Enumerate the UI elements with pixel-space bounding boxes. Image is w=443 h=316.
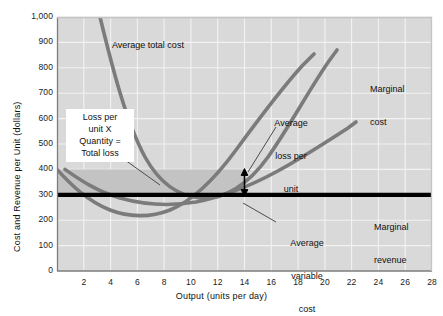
y-tick-800: 800 <box>17 62 53 72</box>
y-axis-title: Cost and Revenue per Unit (dollars) <box>12 101 22 252</box>
x-tick-4: 4 <box>101 277 121 287</box>
average-variable-label-line-2: variable <box>275 271 339 282</box>
x-axis-title: Output (units per day) <box>0 291 443 301</box>
y-tick-1000: 1,000 <box>17 11 53 21</box>
average-loss-label-line-3: unit <box>259 184 323 195</box>
marginal-cost-label: Marginal cost <box>370 62 430 150</box>
y-tick-500: 500 <box>17 138 53 148</box>
x-tick-8: 8 <box>154 277 174 287</box>
marginal-revenue-label-line-2: revenue <box>374 255 438 266</box>
y-tick-200: 200 <box>17 214 53 224</box>
y-tick-0: 0 <box>17 265 53 275</box>
x-tick-12: 12 <box>208 277 228 287</box>
y-tick-600: 600 <box>17 113 53 123</box>
y-tick-100: 100 <box>17 240 53 250</box>
average-loss-label-line-1: Average <box>259 118 323 129</box>
total-loss-callout-box: Loss per unit X Quantity = Total loss <box>66 109 134 162</box>
x-tick-2: 2 <box>74 277 94 287</box>
marginal-revenue-label: Marginal revenue <box>374 200 438 288</box>
average-total-cost-label: Average total cost <box>112 40 222 51</box>
y-tick-400: 400 <box>17 163 53 173</box>
y-tick-300: 300 <box>17 189 53 199</box>
loss-box-line-3: Quantity = <box>69 135 131 147</box>
average-variable-label-line-3: cost <box>275 304 339 315</box>
x-tick-22: 22 <box>342 277 362 287</box>
average-loss-per-unit-label: Average loss per unit <box>259 96 323 217</box>
y-tick-700: 700 <box>17 87 53 97</box>
y-tick-900: 900 <box>17 36 53 46</box>
marginal-revenue-label-line-1: Marginal <box>374 222 438 233</box>
average-variable-cost-label: Average variable cost <box>275 216 339 316</box>
loss-box-line-1: Loss per <box>69 111 131 123</box>
x-tick-14: 14 <box>235 277 255 287</box>
average-loss-label-line-2: loss per <box>259 151 323 162</box>
loss-box-line-2: unit X <box>69 123 131 135</box>
marginal-cost-label-line-1: Marginal <box>370 84 430 95</box>
average-variable-label-line-1: Average <box>275 238 339 249</box>
marginal-cost-label-line-2: cost <box>370 117 430 128</box>
x-tick-10: 10 <box>181 277 201 287</box>
x-tick-6: 6 <box>127 277 147 287</box>
loss-box-line-4: Total loss <box>69 147 131 159</box>
